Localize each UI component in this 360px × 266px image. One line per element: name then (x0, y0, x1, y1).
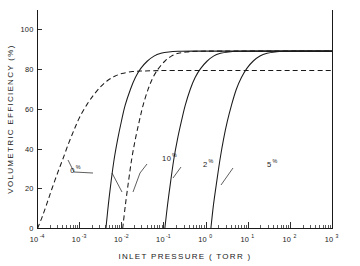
curve-annotation-value: 2 (203, 160, 208, 169)
curve-annotation: 2% (203, 158, 214, 169)
x-axis-tick-labels: 10-410-310-210-1100101102103 (30, 233, 339, 244)
x-tick-label: 103 (325, 233, 339, 244)
curve-annotation-percent: % (76, 164, 81, 170)
curve-annotation-value: 0 (70, 166, 75, 175)
y-tick-label: 80 (25, 65, 34, 74)
curve-curve-a (106, 51, 333, 228)
x-tick-label-base: 10 (198, 235, 207, 244)
x-tick-label-exponent: -3 (82, 233, 87, 239)
x-tick-label-base: 10 (325, 235, 334, 244)
axes-frame (38, 10, 333, 229)
x-tick-label-exponent: 1 (251, 233, 254, 239)
x-tick-label-base: 10 (72, 235, 81, 244)
curve-annotation: 10% (162, 152, 177, 163)
curve-annotation-percent: % (209, 158, 214, 164)
x-tick-label: 10-3 (72, 233, 87, 244)
y-tick-label: 20 (25, 184, 34, 193)
x-tick-label: 100 (198, 233, 212, 244)
data-curves (38, 51, 333, 228)
y-axis-title: VOLUMETRIC EFFICIENCY (%) (6, 44, 15, 193)
curve-annotations: 0%10%2%5% (70, 152, 277, 175)
leader-2pct (173, 167, 181, 178)
x-tick-label: 10-2 (114, 233, 129, 244)
x-tick-label-base: 10 (283, 235, 292, 244)
x-tick-label-exponent: -4 (40, 233, 45, 239)
x-tick-label-base: 10 (30, 235, 39, 244)
x-tick-label-exponent: 0 (209, 233, 212, 239)
x-tick-label: 102 (283, 233, 297, 244)
y-axis-ticks (38, 30, 43, 229)
curve-0 (38, 71, 333, 229)
leader-10pct (133, 164, 147, 192)
leader-0pct-to-solid (112, 173, 122, 192)
x-tick-label-base: 10 (114, 235, 123, 244)
x-tick-label-exponent: -1 (166, 233, 171, 239)
y-axis-tick-labels: 020406080100 (21, 25, 34, 233)
x-axis-title: INLET PRESSURE ( TORR ) (118, 252, 251, 261)
x-tick-label: 101 (240, 233, 254, 244)
x-tick-label-exponent: 3 (336, 233, 339, 239)
x-tick-label: 10-1 (156, 233, 171, 244)
curve-10 (123, 51, 333, 228)
curve-annotation-value: 10 (162, 154, 172, 163)
curve-5 (211, 51, 333, 228)
x-tick-label-exponent: 2 (293, 233, 296, 239)
chart-svg: 020406080100 10-410-310-210-110010110210… (0, 0, 360, 266)
curve-annotation-percent: % (172, 152, 177, 158)
y-tick-label: 60 (25, 105, 34, 114)
y-tick-label: 100 (21, 25, 34, 34)
curve-annotation-percent: % (273, 158, 278, 164)
x-tick-label-base: 10 (240, 235, 249, 244)
annotation-leaders (68, 160, 233, 192)
x-tick-label-exponent: -2 (124, 233, 129, 239)
y-tick-label: 40 (25, 145, 34, 154)
leader-5pct (221, 168, 233, 185)
x-tick-label: 10-4 (30, 233, 45, 244)
curve-annotation-value: 5 (267, 160, 272, 169)
volumetric-efficiency-chart: 020406080100 10-410-310-210-110010110210… (0, 0, 360, 266)
curve-2 (165, 51, 333, 228)
x-tick-label-base: 10 (156, 235, 165, 244)
curve-annotation: 0% (70, 164, 81, 175)
curve-annotation: 5% (267, 158, 278, 169)
y-tick-label: 0 (29, 224, 33, 233)
